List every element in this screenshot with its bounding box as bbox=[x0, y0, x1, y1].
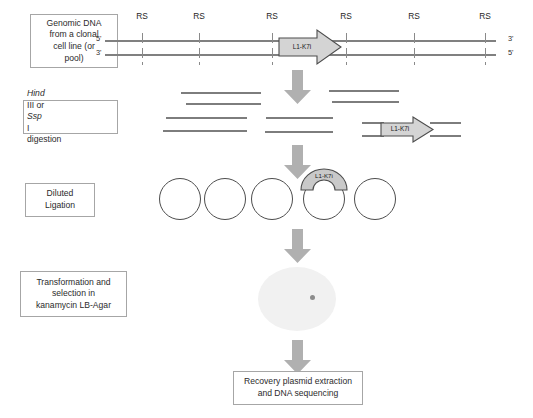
diagram-canvas: Genomic DNA from a clonal cell line (or … bbox=[0, 0, 533, 418]
dna-fragment bbox=[265, 131, 333, 133]
enzyme-ssp-italic: Ssp bbox=[27, 111, 114, 123]
transformation-line-2: selection in bbox=[24, 288, 123, 300]
dna-fragment bbox=[181, 92, 261, 94]
enzyme-hind-rest: III or bbox=[27, 100, 114, 112]
restriction-site-tick-6-bottom bbox=[485, 48, 486, 58]
restriction-site-tick-3-top bbox=[272, 33, 273, 43]
restriction-site-tick-2-top bbox=[199, 33, 200, 43]
petri-dish bbox=[258, 267, 336, 331]
plasmid-circle bbox=[204, 178, 246, 220]
dna-fragment bbox=[332, 101, 399, 103]
genomic-dna-line-2: from a clonal bbox=[34, 29, 114, 41]
digestion-line-1: HindIII or SspI bbox=[27, 88, 114, 134]
restriction-site-tick-3-foot bbox=[272, 62, 273, 65]
enzyme-hind-italic: Hind bbox=[27, 88, 114, 100]
plasmid-circle bbox=[354, 178, 396, 220]
plasmid-circle bbox=[251, 178, 293, 220]
restriction-site-tick-5-top bbox=[414, 33, 415, 43]
step-label-recovery: Recovery plasmid extraction and DNA sequ… bbox=[233, 371, 363, 405]
restriction-site-tick-6-top bbox=[485, 33, 486, 43]
restriction-site-tick-4-bottom bbox=[346, 48, 347, 58]
step-label-transformation: Transformation and selection in kanamyci… bbox=[20, 271, 127, 317]
recovery-line-2: and DNA sequencing bbox=[237, 388, 359, 400]
restriction-site-tick-5-foot bbox=[414, 62, 415, 65]
enzyme-ssp-rest: I bbox=[27, 123, 114, 135]
step-label-ligation: Diluted Ligation bbox=[25, 183, 95, 217]
digestion-line-2: digestion bbox=[27, 134, 114, 146]
genomic-dna-line-1: Genomic DNA bbox=[34, 18, 114, 30]
insert-arrow-fragment-label: L1-K7i bbox=[381, 125, 419, 132]
restriction-site-label-4: RS bbox=[335, 11, 357, 21]
restriction-site-label-6: RS bbox=[474, 11, 496, 21]
restriction-site-tick-2-foot bbox=[199, 62, 200, 65]
dna-end-label-top-right: 3' bbox=[508, 34, 514, 43]
flow-arrow-digestion bbox=[284, 70, 311, 104]
restriction-site-tick-1-foot bbox=[142, 62, 143, 65]
transformation-line-1: Transformation and bbox=[24, 277, 123, 289]
dna-fragment bbox=[186, 103, 261, 105]
restriction-site-tick-1-bottom bbox=[142, 48, 143, 58]
restriction-site-label-1: RS bbox=[131, 11, 153, 21]
dna-end-label-bottom-left: 3' bbox=[96, 48, 102, 57]
genomic-dna-line-3: cell line (or bbox=[34, 41, 114, 53]
restriction-site-tick-3-bottom bbox=[272, 48, 273, 58]
dna-fragment bbox=[266, 117, 333, 119]
restriction-site-tick-5-bottom bbox=[414, 48, 415, 58]
insert-arrow-fragment: L1-K7i bbox=[381, 117, 433, 142]
plasmid-insert-cap: L1-K7i bbox=[300, 169, 348, 191]
dna-fragment bbox=[163, 130, 247, 132]
ligation-line-2: Ligation bbox=[29, 200, 91, 212]
restriction-site-tick-4-top bbox=[346, 33, 347, 43]
dna-fragment bbox=[329, 90, 399, 92]
plasmid-insert-cap-label: L1-K7i bbox=[300, 172, 348, 179]
plasmid-circle bbox=[159, 178, 201, 220]
transformation-line-3: kanamycin LB-Agar bbox=[24, 300, 123, 312]
insert-arrow-genomic: L1-K7i bbox=[279, 30, 341, 64]
bacterial-colony bbox=[310, 295, 315, 300]
restriction-site-tick-4-foot bbox=[346, 62, 347, 65]
restriction-site-label-3: RS bbox=[261, 11, 283, 21]
dna-fragment bbox=[166, 117, 247, 119]
step-label-digestion: HindIII or SspI digestion bbox=[23, 100, 118, 134]
restriction-site-tick-1-top bbox=[142, 33, 143, 43]
recovery-line-1: Recovery plasmid extraction bbox=[237, 376, 359, 388]
restriction-site-label-2: RS bbox=[188, 11, 210, 21]
restriction-site-label-5: RS bbox=[403, 11, 425, 21]
genomic-dna-line-4: pool) bbox=[34, 53, 114, 65]
dna-end-label-top-left: 5' bbox=[96, 34, 102, 43]
restriction-site-tick-6-foot bbox=[485, 62, 486, 65]
flow-arrow-transformation bbox=[284, 229, 311, 263]
ligation-line-1: Diluted bbox=[29, 188, 91, 200]
insert-arrow-genomic-label: L1-K7i bbox=[279, 43, 325, 50]
dna-end-label-bottom-right: 5' bbox=[508, 48, 514, 57]
restriction-site-tick-2-bottom bbox=[199, 48, 200, 58]
insert-fragment-strand-top-right bbox=[430, 122, 461, 124]
insert-fragment-strand-bottom-right bbox=[430, 135, 461, 137]
flow-arrow-recovery bbox=[284, 340, 311, 374]
